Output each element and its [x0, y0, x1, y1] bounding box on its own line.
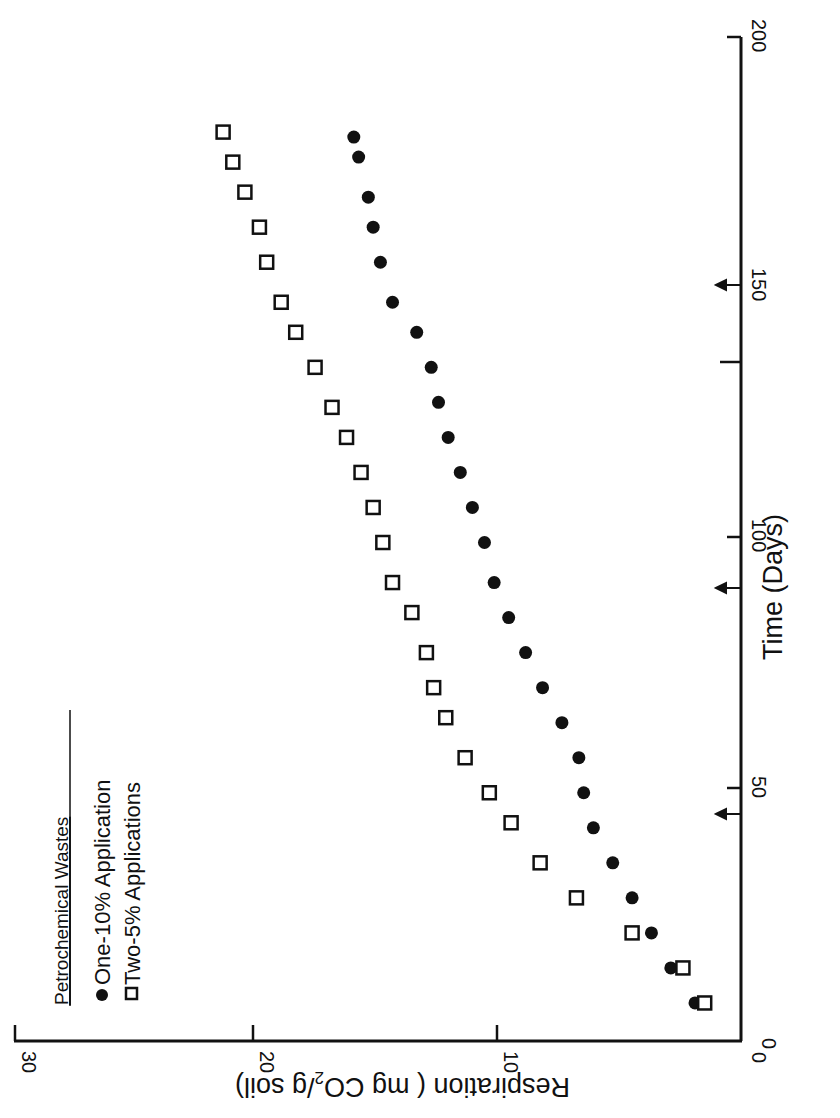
resp-tick-label-20: 20 — [256, 1051, 278, 1073]
filled-circle-point — [572, 751, 585, 764]
open-square-point — [289, 326, 302, 339]
filled-circle-point — [466, 501, 479, 514]
open-square-point — [534, 856, 547, 869]
resp-tick-label-10: 10 — [500, 1051, 522, 1073]
legend-filled-circle-icon — [96, 989, 108, 1001]
filled-circle-point — [386, 296, 399, 309]
filled-circle-point — [442, 431, 455, 444]
time-tick-label-200: 200 — [748, 19, 770, 52]
filled-circle-point — [410, 326, 423, 339]
arrow-icon-day150 — [716, 280, 741, 290]
filled-circle-point — [425, 361, 438, 374]
open-square-point — [355, 466, 368, 479]
open-square-point — [340, 431, 353, 444]
chart-title: Petrochemical Wastes — [51, 817, 72, 1005]
open-square-point — [483, 786, 496, 799]
open-square-point — [217, 126, 230, 139]
filled-circle-point — [577, 786, 590, 799]
respiration-chart: 0 0 50 100 150 200 30 20 10 Time (Days) … — [0, 0, 840, 1118]
open-square-point — [439, 711, 452, 724]
x-axis-title: Time (Days) — [758, 514, 788, 660]
open-square-point — [459, 751, 472, 764]
y-axis-title-sub: 2 — [314, 1068, 323, 1087]
time-tick-label-150: 150 — [748, 268, 770, 301]
open-square-point — [309, 361, 322, 374]
open-square-point — [505, 816, 518, 829]
filled-circle-point — [536, 681, 549, 694]
filled-circle-point — [367, 221, 380, 234]
legend-label-one: One-10% Application — [90, 780, 115, 985]
y-axis-title-pre: Respiration ( mg CO — [324, 1072, 570, 1102]
open-square-point — [626, 926, 639, 939]
filled-circle-point — [347, 131, 360, 144]
open-square-point — [376, 536, 389, 549]
time-tick-label-50: 50 — [748, 776, 770, 798]
open-square-point — [275, 296, 288, 309]
time-tick-label-0: 0 — [748, 1052, 770, 1063]
open-square-point — [570, 891, 583, 904]
legend-open-square-icon — [126, 988, 137, 999]
legend: One-10% Application Two-5% Applications — [90, 780, 145, 1001]
open-square-point — [427, 681, 440, 694]
filled-circle-point — [606, 856, 619, 869]
filled-circle-point — [454, 466, 467, 479]
filled-circle-point — [626, 891, 639, 904]
open-square-point — [260, 256, 273, 269]
resp-tick-label-30: 30 — [18, 1051, 40, 1073]
y-axis-title-post: /g soil) — [235, 1072, 315, 1102]
filled-circle-point — [502, 611, 515, 624]
open-square-point — [326, 401, 339, 414]
filled-circle-point — [488, 576, 501, 589]
open-square-point — [253, 221, 266, 234]
open-square-point — [420, 646, 433, 659]
y-axis-title: Respiration ( mg CO2/g soil) — [235, 1068, 570, 1102]
filled-circle-point — [374, 256, 387, 269]
filled-circle-point — [645, 926, 658, 939]
legend-label-two: Two-5% Applications — [120, 782, 145, 985]
filled-circle-point — [519, 646, 532, 659]
open-square-point — [226, 156, 239, 169]
filled-circle-point — [587, 821, 600, 834]
resp-tick-labels: 30 20 10 — [18, 1051, 522, 1073]
filled-circle-point — [432, 396, 445, 409]
filled-circle-point — [352, 151, 365, 164]
data-points — [217, 126, 712, 1010]
open-square-point — [238, 186, 251, 199]
filled-circle-point — [362, 191, 375, 204]
open-square-point — [676, 961, 689, 974]
open-square-point — [405, 606, 418, 619]
open-square-point — [386, 576, 399, 589]
arrow-icon-day45 — [716, 809, 741, 819]
time-tick-label-0b: 0 — [758, 1038, 780, 1049]
arrow-icon-day90 — [716, 583, 741, 593]
filled-circle-point — [555, 716, 568, 729]
open-square-point — [367, 501, 380, 514]
filled-circle-point — [478, 536, 491, 549]
open-square-point — [698, 996, 711, 1009]
